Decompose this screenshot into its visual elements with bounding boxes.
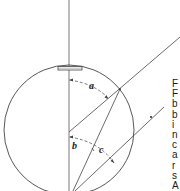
- angle-a-label: a: [89, 80, 94, 91]
- geometry-diagram: a b c: [0, 0, 180, 191]
- intersection-dot: [119, 88, 121, 90]
- side-caption-text: F F b b i n c a r s A: [172, 79, 180, 191]
- angle-a-arrow-left: [69, 79, 73, 82]
- chord-line: [73, 89, 120, 191]
- angle-b-label: b: [72, 140, 77, 151]
- angle-b-arrow-left: [69, 136, 73, 139]
- angle-c-arrow-right: [111, 159, 115, 163]
- lower-ray-dot: [150, 116, 152, 118]
- upper-ray-line: [69, 37, 180, 132]
- angle-c-label: c: [99, 144, 104, 155]
- caption-line: A: [172, 181, 180, 191]
- caption-line: a: [172, 150, 180, 160]
- lower-ray-line: [75, 107, 164, 191]
